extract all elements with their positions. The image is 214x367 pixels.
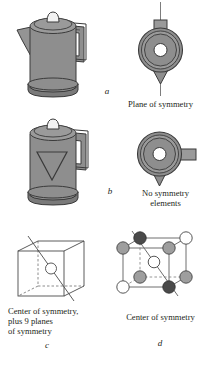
panel-d-lattice xyxy=(107,218,214,313)
lattice-atom-back-bottom-left-mid xyxy=(134,271,146,283)
panel-label-c: c xyxy=(40,340,54,350)
panel-a-top-view xyxy=(107,0,214,100)
caption-c-line3: of symmetry xyxy=(8,326,52,336)
pot-knob-a xyxy=(47,12,59,22)
panel-label-a: a xyxy=(100,86,114,96)
lattice-atom-front-top-left-mid xyxy=(117,242,129,254)
coffee-pot-top-view-a xyxy=(107,0,214,100)
lattice-atom-back-top-right-white xyxy=(180,232,192,244)
center-of-symmetry-marker-c xyxy=(46,263,57,274)
caption-b-line2: elements xyxy=(150,198,181,208)
coffee-pot-top-view-b xyxy=(107,118,214,198)
wireframe-cube-c xyxy=(0,218,107,308)
lattice-atom-front-top-right-mid xyxy=(163,242,175,254)
pot-knob-top-a xyxy=(154,44,167,57)
panel-label-d: d xyxy=(153,338,167,348)
lattice-cube-d xyxy=(107,218,214,313)
caption-c-line2: plus 9 planes xyxy=(8,316,53,326)
panel-c-cube xyxy=(0,218,107,308)
caption-b: No symmetryelements xyxy=(117,188,214,208)
center-of-symmetry-marker-d xyxy=(148,256,160,268)
pot-base-ellipse-a xyxy=(28,78,78,90)
caption-c: Center of symmetry,plus 9 planesof symme… xyxy=(8,306,108,337)
coffee-pot-perspective-a xyxy=(0,0,107,110)
lattice-atom-front-bottom-left-white xyxy=(117,281,129,293)
panel-a-perspective-pot xyxy=(0,0,107,110)
lattice-atom-front-bottom-right-dark xyxy=(163,281,175,293)
pot-knob-b xyxy=(47,119,59,129)
pot-knob-top-b xyxy=(153,148,166,161)
panel-b-perspective-pot xyxy=(0,110,107,218)
caption-d: Center of symmetry xyxy=(107,312,214,322)
lattice-atom-back-bottom-right-mid xyxy=(180,271,192,283)
pot-base-ellipse-b xyxy=(28,186,78,198)
coffee-pot-perspective-b xyxy=(0,110,107,218)
caption-c-line1: Center of symmetry, xyxy=(8,306,78,316)
symmetry-figure: a Plane of symmetry xyxy=(0,0,214,367)
panel-label-b: b xyxy=(103,186,117,196)
lattice-atom-back-top-left-dark xyxy=(134,232,146,244)
panel-b-top-view xyxy=(107,118,214,198)
caption-a: Plane of symmetry xyxy=(107,99,214,109)
caption-b-line1: No symmetry xyxy=(142,188,189,198)
